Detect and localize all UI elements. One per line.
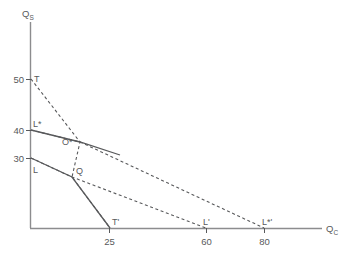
x-tick-label-60: 60 [201,236,212,247]
point-label-l-prime: L' [203,217,210,227]
chart-svg: 50 40 30 25 60 80 QS QC T L* L O* Q T' L… [0,0,345,265]
transformation-curve-l-q-tprime [31,158,110,228]
x-tick-label-80: 80 [259,236,270,247]
point-label-o-star: O* [62,137,73,147]
y-tick-label-30: 30 [13,153,24,164]
x-axis-title-base: Q [326,223,333,234]
point-label-q: Q [76,166,83,176]
y-axis-title-subscript: S [29,14,34,21]
chart-figure: 50 40 30 25 60 80 QS QC T L* L O* Q T' L… [0,0,345,265]
y-tick-label-40: 40 [13,125,24,136]
point-label-l: L [33,165,38,175]
y-tick-label-50: 50 [13,74,24,85]
x-tick-label-25: 25 [104,236,115,247]
x-axis-title: QC [326,223,338,236]
point-label-l-star: L* [33,119,42,129]
point-label-l-star-prime: L*' [262,217,273,227]
point-label-t: T [34,74,40,84]
y-axis-title: QS [22,8,34,21]
x-axis-title-subscript: C [333,229,338,236]
terms-of-trade-line-t-tprime [31,79,110,228]
y-axis-title-base: Q [22,8,29,19]
cut-off-caption [0,256,345,265]
point-label-t-prime: T' [112,217,119,227]
